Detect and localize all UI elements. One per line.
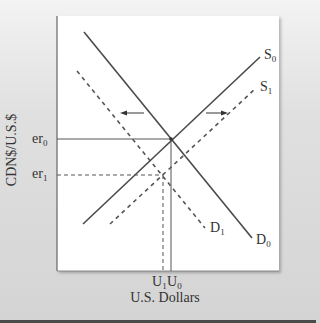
curve-label-d1: D1 (210, 220, 225, 240)
y-tick-er1: er1 (32, 166, 47, 186)
curve-label-s0: S0 (264, 47, 276, 67)
curve-label-d0: D0 (256, 232, 271, 252)
curve-label-s1: S1 (260, 79, 272, 99)
y-tick-er0: er0 (32, 131, 47, 151)
y-axis-label: CDN$/U.S.$ (2, 85, 22, 215)
equilibrium-point-e0 (169, 137, 173, 141)
x-axis-label: U.S. Dollars (110, 290, 220, 306)
